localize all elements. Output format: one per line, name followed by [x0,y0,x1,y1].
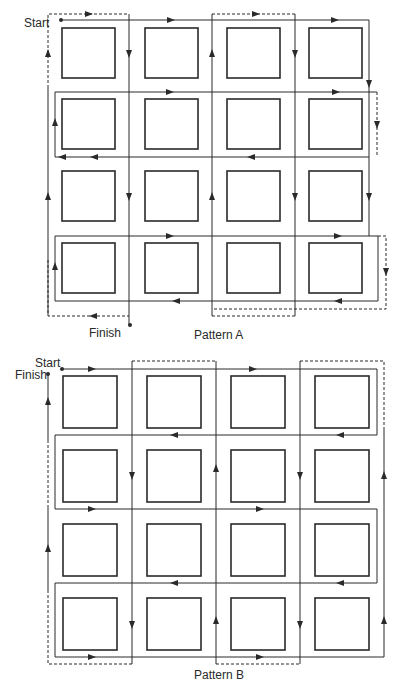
pattern-b-finish-label: Finish [15,369,47,381]
pattern-b-title: Pattern B [194,669,244,681]
pattern-b-diagram [0,0,398,698]
